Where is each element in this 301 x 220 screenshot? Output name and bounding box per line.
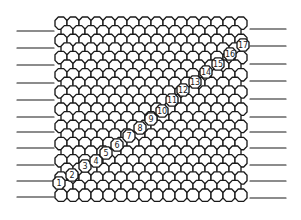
- hex-cell: [211, 189, 223, 201]
- hex-cell: [175, 189, 187, 201]
- cell-number-label: 3: [82, 162, 87, 171]
- cell-number-label: 6: [114, 141, 119, 150]
- numbered-cell: 7: [123, 130, 135, 142]
- numbered-cell: 6: [111, 139, 123, 151]
- numbered-cell: 5: [100, 147, 112, 159]
- cell-number-label: 7: [126, 132, 131, 141]
- right-lead-lines: [250, 29, 286, 198]
- cell-number-label: 2: [69, 171, 74, 180]
- cell-number-label: 17: [238, 41, 248, 50]
- numbered-cell: 8: [134, 122, 146, 134]
- numbered-cell: 10: [156, 105, 168, 117]
- hex-cell: [163, 189, 175, 201]
- cell-number-label: 4: [93, 157, 98, 166]
- hex-cell: [127, 189, 139, 201]
- cell-number-label: 15: [213, 60, 223, 69]
- numbered-cell: 2: [66, 169, 78, 181]
- hex-cell: [67, 189, 79, 201]
- honeycomb-diagram: 1234567891011121314151617: [0, 0, 301, 220]
- hex-cell: [91, 189, 103, 201]
- cell-number-label: 5: [103, 149, 108, 158]
- cell-number-label: 8: [137, 124, 142, 133]
- numbered-cell: 15: [212, 58, 224, 70]
- cell-number-label: 14: [201, 68, 211, 77]
- cell-number-label: 11: [167, 96, 177, 105]
- numbered-cell: 13: [189, 76, 201, 88]
- numbered-cell: 16: [224, 48, 236, 60]
- hex-cell: [139, 189, 151, 201]
- hex-cell: [55, 189, 67, 201]
- numbered-cell: 17: [237, 39, 249, 51]
- hex-cell: [199, 189, 211, 201]
- numbered-cell: 11: [166, 94, 178, 106]
- cell-number-label: 13: [190, 78, 200, 87]
- cell-number-label: 9: [148, 115, 153, 124]
- numbered-cell: 14: [200, 66, 212, 78]
- left-lead-lines: [17, 31, 54, 197]
- hex-cell: [103, 189, 115, 201]
- numbered-cell: 3: [79, 160, 91, 172]
- hex-cell: [223, 189, 235, 201]
- hex-cell: [79, 189, 91, 201]
- cell-number-label: 16: [225, 50, 235, 59]
- numbered-cell: 1: [53, 177, 65, 189]
- hex-cell: [151, 189, 163, 201]
- hex-cell: [115, 189, 127, 201]
- hex-cell: [235, 189, 247, 201]
- cell-number-label: 12: [178, 86, 188, 95]
- numbered-cell: 12: [177, 84, 189, 96]
- hex-cell: [187, 189, 199, 201]
- numbered-cell: 9: [145, 113, 157, 125]
- cell-number-label: 10: [157, 107, 167, 116]
- cell-number-label: 1: [56, 179, 61, 188]
- hexagon-lattice: [55, 17, 247, 201]
